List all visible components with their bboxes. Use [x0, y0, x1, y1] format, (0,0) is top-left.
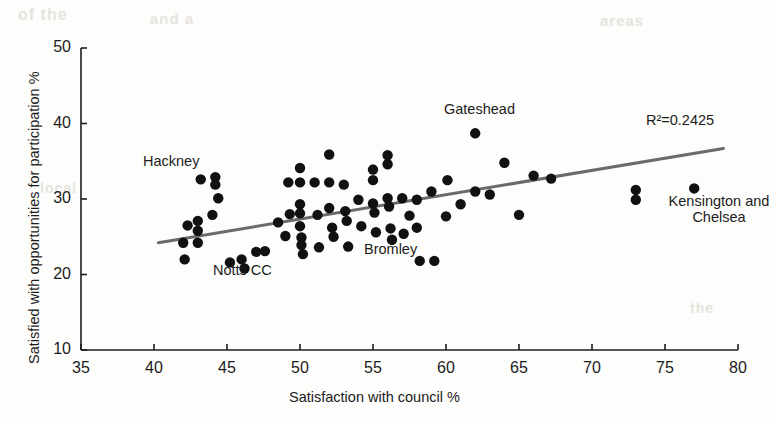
x-tick-label: 75 — [645, 359, 685, 377]
y-tick-label: 30 — [37, 189, 71, 207]
data-point[interactable] — [485, 189, 495, 199]
data-point[interactable] — [178, 238, 188, 248]
x-tick-label: 70 — [572, 359, 612, 377]
annotation-notts-cc: Notts CC — [213, 262, 272, 278]
data-point[interactable] — [213, 193, 223, 203]
data-point[interactable] — [470, 186, 480, 196]
data-point[interactable] — [296, 240, 306, 250]
scatter-chart-figure: of theand aareaslocalthe Satisfied with … — [0, 0, 776, 422]
data-point[interactable] — [285, 209, 295, 219]
data-point[interactable] — [442, 175, 452, 185]
data-point[interactable] — [353, 195, 363, 205]
data-point[interactable] — [412, 222, 422, 232]
data-point[interactable] — [343, 241, 353, 251]
data-point[interactable] — [426, 186, 436, 196]
data-point[interactable] — [309, 177, 319, 187]
x-tick-label: 60 — [426, 359, 466, 377]
x-tick-label: 65 — [499, 359, 539, 377]
y-tick-label: 10 — [37, 340, 71, 358]
data-point[interactable] — [312, 210, 322, 220]
data-point[interactable] — [631, 185, 641, 195]
data-point[interactable] — [283, 177, 293, 187]
data-point[interactable] — [369, 207, 379, 217]
data-point[interactable] — [340, 206, 350, 216]
data-point[interactable] — [210, 179, 220, 189]
data-point[interactable] — [415, 256, 425, 266]
data-point[interactable] — [295, 177, 305, 187]
x-axis-title: Satisfaction with council % — [289, 389, 460, 405]
data-point[interactable] — [328, 232, 338, 242]
data-point[interactable] — [193, 226, 203, 236]
data-point[interactable] — [382, 159, 392, 169]
data-point[interactable] — [339, 179, 349, 189]
data-point[interactable] — [404, 210, 414, 220]
x-tick-label: 55 — [353, 359, 393, 377]
data-point[interactable] — [298, 249, 308, 259]
data-point[interactable] — [324, 149, 334, 159]
annotation-bromley: Bromley — [364, 241, 417, 257]
data-point[interactable] — [499, 158, 509, 168]
x-tick-label: 50 — [280, 359, 320, 377]
annotation-hackney: Hackney — [143, 153, 199, 169]
data-point[interactable] — [470, 128, 480, 138]
data-point[interactable] — [368, 175, 378, 185]
data-point[interactable] — [327, 222, 337, 232]
annotation-gateshead: Gateshead — [444, 101, 515, 117]
data-point[interactable] — [179, 254, 189, 264]
data-point[interactable] — [295, 208, 305, 218]
data-point[interactable] — [398, 229, 408, 239]
data-point[interactable] — [295, 163, 305, 173]
data-point[interactable] — [528, 170, 538, 180]
data-point[interactable] — [324, 203, 334, 213]
data-points-group — [178, 128, 699, 274]
x-tick-label: 45 — [207, 359, 247, 377]
data-point[interactable] — [196, 174, 206, 184]
data-point[interactable] — [441, 211, 451, 221]
y-tick-label: 50 — [37, 38, 71, 56]
data-point[interactable] — [384, 201, 394, 211]
data-point[interactable] — [385, 223, 395, 233]
data-point[interactable] — [514, 210, 524, 220]
data-point[interactable] — [397, 193, 407, 203]
data-point[interactable] — [368, 198, 378, 208]
r-squared-label: R²=0.2425 — [646, 112, 714, 128]
data-point[interactable] — [280, 231, 290, 241]
x-tick-label: 80 — [718, 359, 758, 377]
data-point[interactable] — [193, 238, 203, 248]
data-point[interactable] — [342, 216, 352, 226]
data-point[interactable] — [295, 221, 305, 231]
data-point[interactable] — [356, 221, 366, 231]
data-point[interactable] — [546, 173, 556, 183]
annotation-kensington-and-chelsea: Kensington and Chelsea — [664, 193, 774, 225]
data-point[interactable] — [314, 242, 324, 252]
data-point[interactable] — [182, 220, 192, 230]
data-point[interactable] — [412, 195, 422, 205]
data-point[interactable] — [193, 216, 203, 226]
data-point[interactable] — [273, 217, 283, 227]
x-tick-label: 35 — [61, 359, 101, 377]
y-tick-label: 40 — [37, 114, 71, 132]
data-point[interactable] — [207, 210, 217, 220]
data-point[interactable] — [371, 227, 381, 237]
data-point[interactable] — [631, 195, 641, 205]
data-point[interactable] — [382, 150, 392, 160]
x-tick-label: 40 — [134, 359, 174, 377]
data-point[interactable] — [429, 256, 439, 266]
y-tick-label: 20 — [37, 265, 71, 283]
data-point[interactable] — [368, 164, 378, 174]
data-point[interactable] — [455, 199, 465, 209]
data-point[interactable] — [260, 246, 270, 256]
data-point[interactable] — [295, 199, 305, 209]
data-point[interactable] — [324, 177, 334, 187]
